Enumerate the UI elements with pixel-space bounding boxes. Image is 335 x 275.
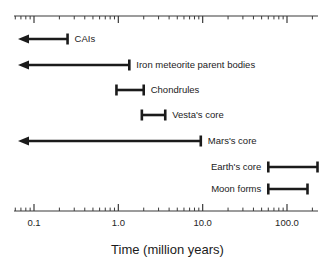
bar-label: CAIs: [75, 34, 96, 44]
bar-label: Iron meteorite parent bodies: [136, 60, 255, 70]
bar-arrowhead-left: [18, 137, 29, 146]
timeline-bar: [116, 85, 143, 96]
axis-top: [14, 16, 318, 23]
x-axis-title: Time (million years): [0, 243, 335, 256]
timeline-bar: [142, 110, 165, 121]
chart-canvas: [0, 0, 335, 275]
timeline-bar: [268, 184, 307, 195]
axis-bottom: [14, 204, 318, 211]
bar-label: Moon forms: [0, 184, 261, 194]
timeline-chart: CAIsIron meteorite parent bodiesChondrul…: [0, 0, 335, 275]
bar-arrowhead-left: [18, 61, 29, 70]
x-tick-label: 0.1: [4, 218, 64, 228]
bar-label: Mars's core: [208, 136, 257, 146]
bar-label: Vesta's core: [172, 110, 223, 120]
timeline-bar: [18, 136, 201, 147]
x-tick-label: 10.0: [173, 218, 233, 228]
timeline-bar: [268, 162, 317, 173]
bar-label: Chondrules: [151, 85, 200, 95]
bar-arrowhead-left: [18, 35, 29, 44]
x-tick-label: 1.0: [88, 218, 148, 228]
timeline-bar: [18, 34, 68, 45]
x-tick-label: 100.0: [257, 218, 317, 228]
bar-label: Earth's core: [0, 162, 261, 172]
timeline-bar: [18, 60, 129, 71]
